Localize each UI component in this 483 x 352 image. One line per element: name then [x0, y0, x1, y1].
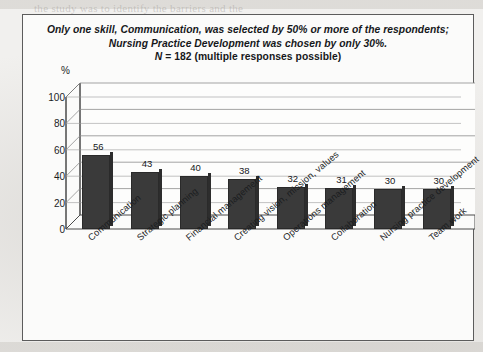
chart-title-line-2: Nursing Practice Development was chosen … [23, 37, 473, 51]
x-axis-label-5: Operations management [281, 168, 367, 243]
chart-sample-note: N = 182 (multiple responses possible) [23, 50, 473, 64]
bleed-through-text-top: the study was to identify the barriers a… [34, 2, 243, 14]
sample-size-value: = 182 (multiple responses possible) [162, 51, 341, 62]
x-axis-labels: CommunicationStrategic planningFinancial… [23, 63, 475, 341]
figure-frame: Only one skill, Communication, was selec… [22, 14, 474, 341]
x-axis-label-3: Financial management [184, 173, 264, 242]
x-axis-label-8: Team work [427, 206, 469, 243]
chart-title-line-1: Only one skill, Communication, was selec… [23, 23, 473, 37]
x-axis-label-6: Collaboration [329, 199, 378, 243]
bar-chart: % 020406080100 5643403832313030 Communic… [23, 63, 475, 341]
chart-title: Only one skill, Communication, was selec… [23, 23, 473, 64]
x-axis-label-7: Nursing practice development [378, 154, 481, 243]
